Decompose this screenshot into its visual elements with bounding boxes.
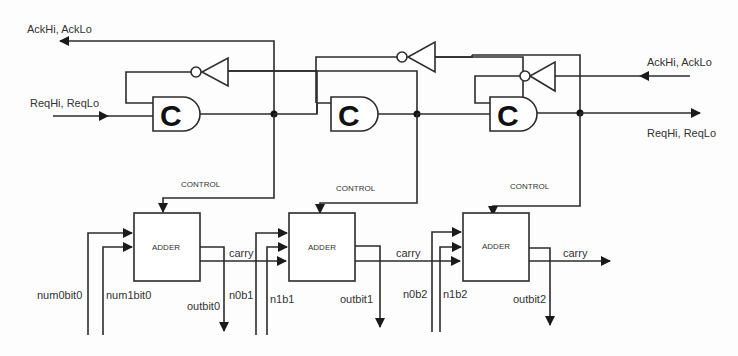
carry-label-1: carry [229,247,254,259]
carry-label-2: carry [396,247,421,259]
inverter-triangle-3 [530,62,555,91]
input-b-label-3: n1b2 [443,288,467,300]
adder-label-1: ADDER [152,243,180,252]
ack-wire-2 [228,71,417,114]
adder-1: ADDER [134,213,200,281]
input-b-label-1: num1bit0 [106,289,151,301]
stage2-c-element: C [331,97,378,132]
inverter-bubble-1 [191,67,201,77]
async-adder-circuit-diagram: AckHi, AckLo ReqHi, ReqLo C CONTROL C CO… [0,0,738,356]
inverter-triangle-1 [202,58,228,86]
output-label-2: outbit1 [340,293,373,305]
ack-right-label: AckHi, AckLo [647,56,712,68]
inverter-triangle-2 [408,42,435,72]
c-element-label-2: C [338,99,360,132]
adder-label-2: ADDER [308,243,336,252]
control-label-2: CONTROL [336,184,376,193]
adder-label-3: ADDER [482,242,510,251]
output-label-1: outbit0 [187,300,220,312]
input-a-wire-2 [256,233,287,335]
c-element-label-1: C [160,99,182,132]
output-wire-1 [200,247,224,331]
output-wire-3 [529,248,550,325]
control-label-1: CONTROL [181,180,221,189]
input-a-label-1: num0bit0 [37,289,82,301]
stage1-c-element: C [153,97,200,132]
n0b1-label: n0b1 [229,289,253,301]
output-label-3: outbit2 [513,293,546,305]
req-wire-1b [274,103,331,114]
carry-label-3: carry [563,247,588,259]
c-element-label-3: C [497,99,519,132]
input-b-label-2: n1b1 [270,293,294,305]
inverter-bubble-2 [397,52,407,62]
stage3-c-element: C [490,97,537,132]
inverter-bubble-3 [520,71,530,81]
req-left-label: ReqHi, ReqLo [30,97,99,109]
ack-wire-3b [435,55,472,57]
adder-2: ADDER [289,213,355,281]
ack-left-label: AckHi, AckLo [27,23,92,35]
input-a-wire-1 [88,233,132,335]
input-a-label-3: n0b2 [403,288,427,300]
req-right-label: ReqHi, ReqLo [647,127,716,139]
adder-3: ADDER [463,213,529,281]
output-wire-2 [355,246,380,327]
control-label-3: CONTROL [510,182,550,191]
